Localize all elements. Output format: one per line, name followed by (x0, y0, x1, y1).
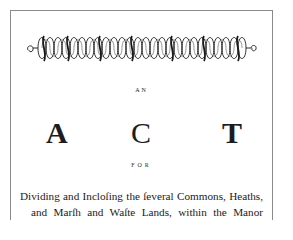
decorative-ornament-icon (26, 32, 258, 64)
title-letter-a: A (46, 118, 68, 148)
title-letter-c: C (131, 118, 151, 148)
body-line-1: Dividing and Incloſing the ſeveral Commo… (20, 188, 263, 204)
title-letter-t: T (222, 118, 242, 148)
act-description: Dividing and Incloſing the ſeveral Commo… (20, 188, 263, 220)
subheading-for: FOR (0, 162, 283, 168)
heading-an: AN (0, 87, 283, 93)
body-line-2: and Marſh and Waſte Lands, within the Ma… (20, 204, 263, 220)
